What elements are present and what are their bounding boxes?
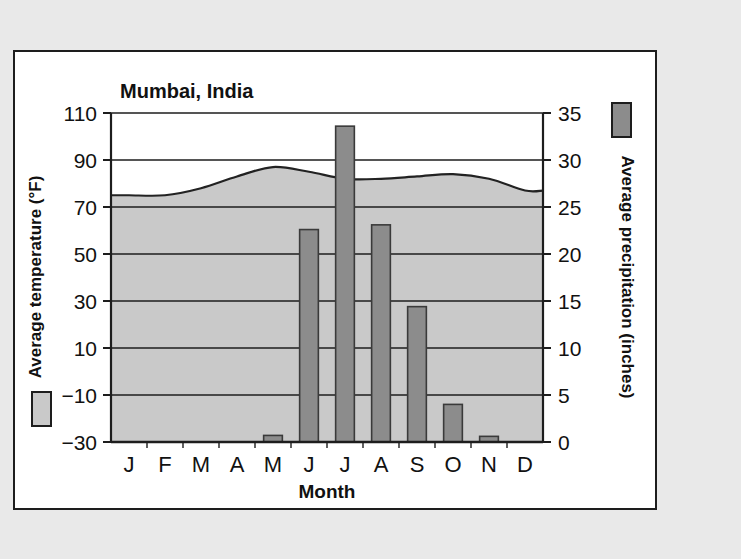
right-tick-label: 0 [558,431,570,454]
right-tick-label: 5 [558,384,570,407]
precipitation-bar [336,126,355,442]
figure-card: 1109070503010−10−30 35302520151050 JFMAM… [13,50,657,510]
month-label: D [517,452,533,477]
right-tick-label: 25 [558,196,581,219]
month-label: N [481,452,497,477]
temperature-area [111,167,543,442]
left-tick-label: 30 [74,290,97,313]
chart-container: 1109070503010−10−30 35302520151050 JFMAM… [15,52,655,508]
right-tick-label: 10 [558,337,581,360]
left-axis-title: Average temperature (°F) [26,176,45,379]
month-label: A [230,452,245,477]
month-label: S [410,452,425,477]
left-tick-label: −30 [61,431,97,454]
precipitation-bar [408,307,427,442]
left-axis-ticks [103,113,111,442]
precipitation-bar [300,230,319,442]
left-tick-label: 50 [74,243,97,266]
month-label: M [192,452,210,477]
month-label: J [304,452,315,477]
right-tick-label: 35 [558,102,581,125]
left-tick-label: 10 [74,337,97,360]
right-tick-label: 15 [558,290,581,313]
page-root: 1109070503010−10−30 35302520151050 JFMAM… [0,0,741,559]
left-tick-label: −10 [61,384,97,407]
right-tick-label: 30 [558,149,581,172]
month-label: A [374,452,389,477]
left-axis-tick-labels: 1109070503010−10−30 [61,102,97,454]
month-label: O [444,452,461,477]
month-label: J [340,452,351,477]
right-tick-label: 20 [558,243,581,266]
chart-title: Mumbai, India [120,80,254,102]
precipitation-bar [372,225,391,442]
left-tick-label: 70 [74,196,97,219]
month-label: M [264,452,282,477]
month-axis-labels: JFMAMJJASOND [124,452,533,477]
month-label: F [158,452,171,477]
temperature-legend-swatch [32,392,51,426]
month-label: J [124,452,135,477]
precipitation-bar [444,404,463,442]
left-tick-label: 110 [64,102,97,125]
x-axis-title: Month [299,481,356,502]
right-axis-tick-labels: 35302520151050 [558,102,581,454]
left-tick-label: 90 [74,149,97,172]
climate-chart: 1109070503010−10−30 35302520151050 JFMAM… [15,52,655,508]
precipitation-legend-swatch [612,103,631,137]
right-axis-title: Average precipitation (inches) [618,155,637,398]
right-axis-ticks [543,113,551,442]
